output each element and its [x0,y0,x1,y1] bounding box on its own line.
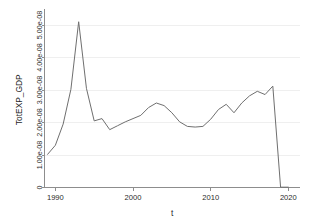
chart-background [0,0,312,224]
y-axis-title: TotEXP_GDP [14,74,24,125]
y-tick-label: 2.00e-08 [35,108,44,136]
y-tick-label: 5.00e-08 [35,11,44,39]
x-tick-label: 1990 [47,193,64,202]
line-chart: 01.00e-082.00e-083.00e-084.00e-085.00e-0… [0,0,312,224]
chart-container: 01.00e-082.00e-083.00e-084.00e-085.00e-0… [0,0,312,224]
y-tick-label: 1.00e-08 [35,141,44,169]
y-tick-label: 3.00e-08 [35,76,44,104]
x-tick-label: 2020 [280,193,297,202]
y-axis-ticks: 01.00e-082.00e-083.00e-084.00e-085.00e-0… [35,11,44,190]
x-tick-label: 2000 [125,193,142,202]
y-tick-label: 4.00e-08 [35,43,44,71]
x-tick-label: 2010 [202,193,219,202]
